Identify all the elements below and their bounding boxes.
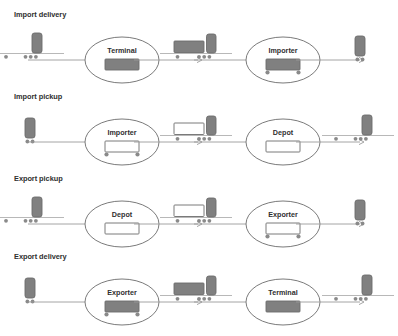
bobtail-tractor: [320, 258, 398, 332]
process-row: Export deliveryExporterTerminal: [0, 252, 388, 336]
process-row: Import deliveryTerminalImporter: [0, 10, 388, 94]
bobtail-tractor: [320, 180, 398, 254]
process-row-lane: DepotExporter: [0, 180, 388, 258]
bobtail-tractor: [320, 98, 398, 172]
process-row-lane: ExporterTerminal: [0, 258, 388, 336]
process-row-lane: TerminalImporter: [0, 16, 388, 94]
bobtail-tractor: [320, 16, 398, 90]
process-row-lane: ImporterDepot: [0, 98, 388, 176]
process-row: Export pickupDepotExporter: [0, 174, 388, 258]
process-row: Import pickupImporterDepot: [0, 92, 388, 176]
